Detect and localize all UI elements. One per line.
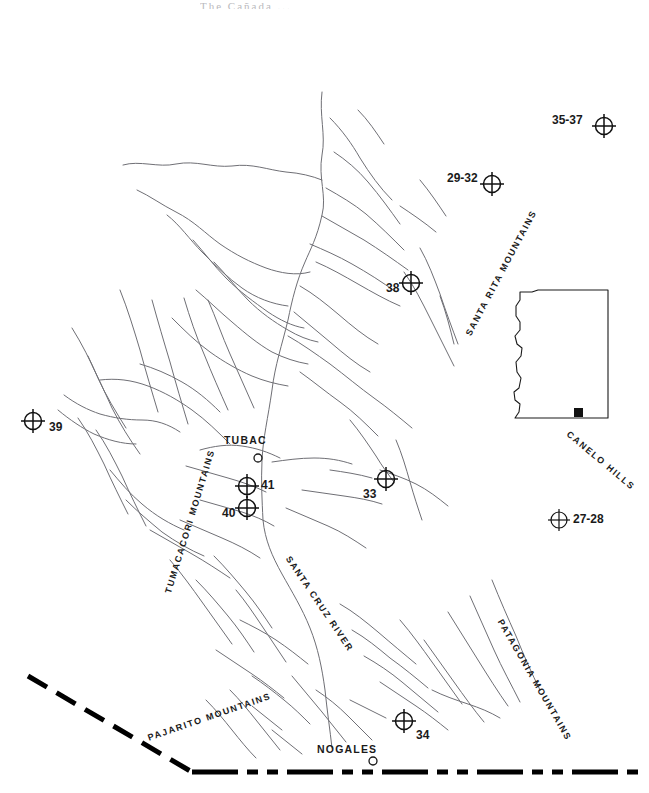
site-label-35-37: 35-37 bbox=[552, 113, 583, 127]
site-marker-34 bbox=[392, 709, 416, 733]
site-marker-41 bbox=[235, 474, 259, 498]
town-dot-tubac bbox=[254, 454, 262, 462]
international-border bbox=[28, 676, 645, 772]
town-label-tubac: TUBAC bbox=[224, 434, 267, 446]
site-label-27-28: 27-28 bbox=[573, 512, 604, 526]
site-marker-35-37 bbox=[592, 114, 616, 138]
town-markers bbox=[254, 454, 377, 765]
site-label-29-32: 29-32 bbox=[447, 171, 478, 185]
arizona-inset-outline bbox=[514, 290, 608, 418]
site-marker-33 bbox=[374, 467, 398, 491]
inset-site-marker bbox=[574, 408, 583, 417]
site-marker-38 bbox=[399, 271, 423, 295]
site-label-40: 40 bbox=[222, 506, 235, 520]
site-markers bbox=[21, 114, 616, 733]
town-dot-nogales bbox=[369, 757, 377, 765]
site-label-38: 38 bbox=[386, 281, 399, 295]
site-marker-39 bbox=[21, 409, 45, 433]
site-label-41: 41 bbox=[261, 478, 274, 492]
town-label-nogales: NOGALES bbox=[317, 743, 377, 755]
site-label-39: 39 bbox=[49, 420, 62, 434]
site-label-33: 33 bbox=[363, 487, 376, 501]
site-label-34: 34 bbox=[416, 728, 429, 742]
site-marker-27-28 bbox=[548, 509, 570, 531]
site-marker-29-32 bbox=[480, 172, 504, 196]
stream-network bbox=[58, 92, 540, 758]
